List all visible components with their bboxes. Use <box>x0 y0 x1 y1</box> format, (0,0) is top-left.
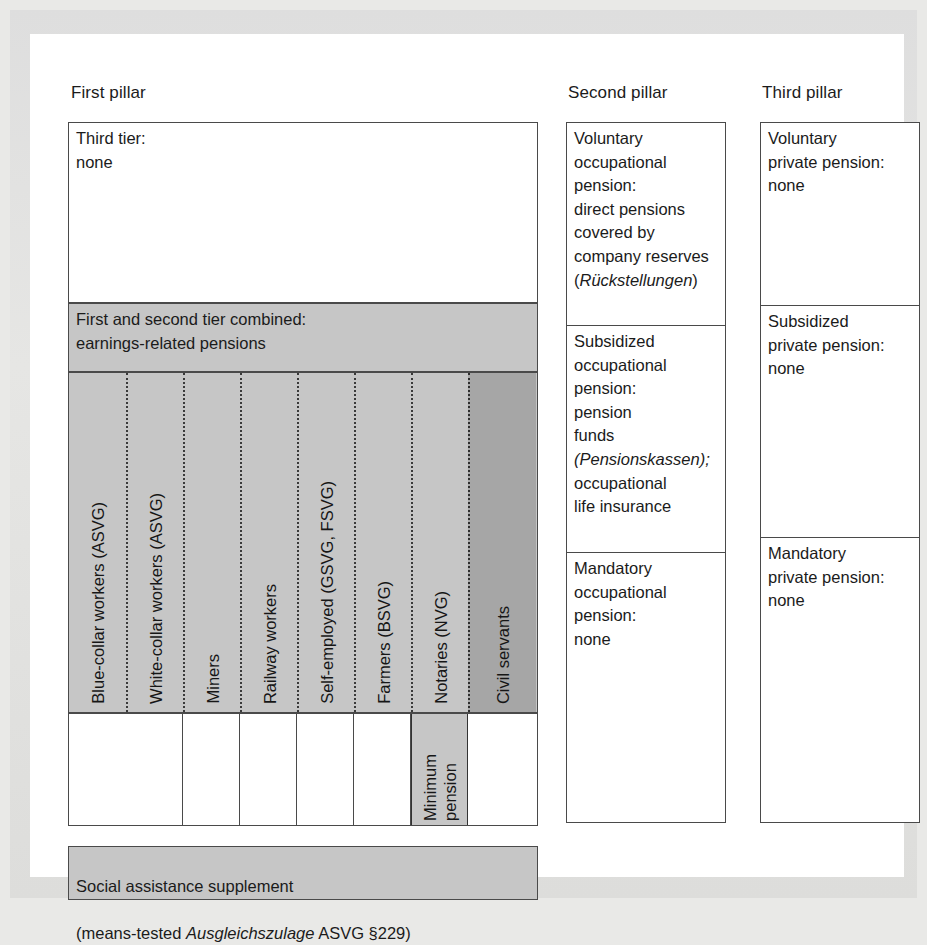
scheme-column-miners: Miners <box>183 373 240 712</box>
scheme-label: Farmers (BSVG) <box>375 581 392 704</box>
minimum-pension-label: Minimum pension <box>420 754 460 821</box>
scheme-label: Railway workers <box>261 584 278 704</box>
scheme-label: Self-employed (GSVG, FSVG) <box>318 481 335 704</box>
bottom-row-cell <box>240 714 297 825</box>
first-pillar-schemes-row: Blue-collar workers (ASVG)White-collar w… <box>68 372 538 713</box>
text-pre: Voluntary private pension: none <box>768 129 885 194</box>
scheme-label: Miners <box>204 654 221 704</box>
scheme-column-white-collar-workers-asvg: White-collar workers (ASVG) <box>126 373 183 712</box>
third-pillar-cell-1: Voluntary private pension: none <box>761 123 919 306</box>
text-pre: Mandatory occupational pension: none <box>574 559 667 648</box>
bottom-row-cell <box>354 714 411 825</box>
second-pillar-cell-2-text: Subsidized occupational pension: pension… <box>567 326 725 519</box>
text-italic: (Pensionskassen); <box>574 450 710 468</box>
page-frame: First pillar Second pillar Third pillar … <box>10 10 917 898</box>
bottom-row-cell <box>183 714 240 825</box>
bottom-row-cell <box>297 714 354 825</box>
first-pillar-combined-tier-box: First and second tier combined: earnings… <box>68 303 538 372</box>
minimum-pension-cell: Minimum pension <box>411 714 468 825</box>
scheme-column-blue-collar-workers-asvg: Blue-collar workers (ASVG) <box>69 373 126 712</box>
combined-tier-text: First and second tier combined: earnings… <box>69 304 537 355</box>
second-pillar-cell-1: Voluntary occupational pension: direct p… <box>567 123 725 326</box>
social-assistance-line1: Social assistance supplement <box>76 877 293 895</box>
scheme-column-self-employed-gsvg-fsvg: Self-employed (GSVG, FSVG) <box>297 373 354 712</box>
third-pillar-cell-2: Subsidized private pension: none <box>761 306 919 538</box>
text-post: ) <box>692 271 698 289</box>
social-assistance-line2-italic: Ausgleichszulage <box>186 924 314 942</box>
bottom-row-cell <box>69 714 183 825</box>
scheme-label: Notaries (NVG) <box>432 591 449 704</box>
header-second-pillar: Second pillar <box>568 83 668 103</box>
second-pillar-box: Voluntary occupational pension: direct p… <box>566 122 726 823</box>
scheme-column-farmers-bsvg: Farmers (BSVG) <box>354 373 411 712</box>
first-pillar-third-tier-box: Third tier: none <box>68 122 538 303</box>
text-pre: Subsidized occupational pension: pension… <box>574 332 667 444</box>
text-pre: Subsidized private pension: none <box>768 312 885 377</box>
text-pre: Voluntary occupational pension: direct p… <box>574 129 709 289</box>
header-third-pillar: Third pillar <box>762 83 843 103</box>
social-assistance-box: Social assistance supplement (means-test… <box>68 846 538 900</box>
second-pillar-cell-2: Subsidized occupational pension: pension… <box>567 326 725 553</box>
second-pillar-cell-1-text: Voluntary occupational pension: direct p… <box>567 123 725 292</box>
third-pillar-cell-1-text: Voluntary private pension: none <box>761 123 919 198</box>
scheme-label: Blue-collar workers (ASVG) <box>89 502 106 704</box>
social-assistance-text: Social assistance supplement (means-test… <box>69 847 537 945</box>
text-pre: Mandatory private pension: none <box>768 544 885 609</box>
text-italic: Rückstellungen <box>580 271 693 289</box>
third-pillar-cell-3-text: Mandatory private pension: none <box>761 538 919 613</box>
second-pillar-cell-3-text: Mandatory occupational pension: none <box>567 553 725 651</box>
header-first-pillar: First pillar <box>71 83 146 103</box>
scheme-label: White-collar workers (ASVG) <box>147 493 164 704</box>
social-assistance-line2-post: ASVG §229) <box>314 924 410 942</box>
figure-canvas: First pillar Second pillar Third pillar … <box>30 34 904 877</box>
third-pillar-cell-2-text: Subsidized private pension: none <box>761 306 919 381</box>
second-pillar-cell-3: Mandatory occupational pension: none <box>567 553 725 821</box>
third-pillar-box: Voluntary private pension: noneSubsidize… <box>760 122 920 823</box>
scheme-column-notaries-nvg: Notaries (NVG) <box>411 373 468 712</box>
third-pillar-cell-3: Mandatory private pension: none <box>761 538 919 821</box>
social-assistance-line2-pre: (means-tested <box>76 924 186 942</box>
text-post: occupational life insurance <box>574 474 671 516</box>
bottom-row-cell <box>468 714 536 825</box>
third-tier-text: Third tier: none <box>69 123 537 174</box>
scheme-label: Civil servants <box>495 606 512 704</box>
first-pillar-bottom-row: Minimum pension <box>68 713 538 826</box>
scheme-column-civil-servants: Civil servants <box>468 373 536 712</box>
scheme-column-railway-workers: Railway workers <box>240 373 297 712</box>
